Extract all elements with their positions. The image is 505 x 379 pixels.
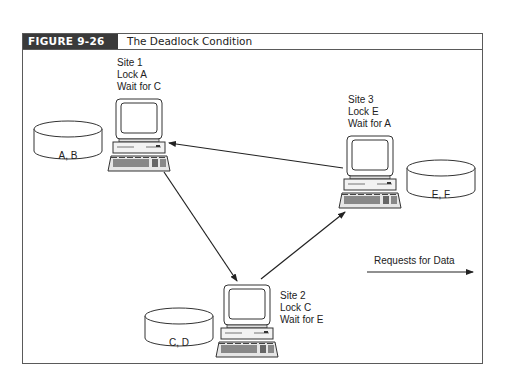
- arrow-site3-to-site1: [169, 143, 343, 168]
- site-1-wait: Wait for C: [117, 81, 161, 92]
- site-3-name: Site 3: [348, 94, 374, 105]
- database-ef: E, F: [407, 160, 475, 200]
- deadlock-diagram: Site 1 Lock A Wait for C A, B Site 3 Loc…: [0, 0, 505, 379]
- legend-label: Requests for Data: [374, 255, 455, 266]
- site-2-lock: Lock C: [280, 302, 311, 313]
- computer-icon: [108, 99, 170, 171]
- site-3-lock: Lock E: [348, 106, 379, 117]
- site-1-lock: Lock A: [117, 69, 147, 80]
- database-cd: C, D: [145, 308, 213, 348]
- site-2-wait: Wait for E: [280, 314, 324, 325]
- site-3: Site 3 Lock E Wait for A: [339, 94, 401, 208]
- arrow-site1-to-site2: [164, 172, 237, 281]
- database-ab-label: A, B: [59, 150, 78, 161]
- arrow-site2-to-site3: [261, 212, 345, 279]
- database-ef-label: E, F: [432, 189, 450, 200]
- site-2: Site 2 Lock C Wait for E: [216, 285, 324, 357]
- site-2-name: Site 2: [280, 290, 306, 301]
- database-cd-label: C, D: [169, 337, 189, 348]
- database-ab: A, B: [34, 121, 102, 161]
- site-1-name: Site 1: [117, 57, 143, 68]
- computer-icon: [339, 136, 401, 208]
- site-3-wait: Wait for A: [348, 118, 391, 129]
- site-1: Site 1 Lock A Wait for C: [108, 57, 170, 171]
- legend: Requests for Data: [367, 255, 473, 272]
- computer-icon: [216, 285, 278, 357]
